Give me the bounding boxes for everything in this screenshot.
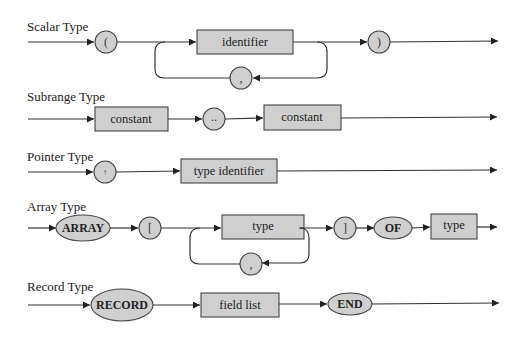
array-comma-symbol: ,: [250, 257, 253, 271]
syntax-diagram: Scalar Type ( identifier , ) Subrange Ty…: [0, 0, 526, 341]
constant-label-1: constant: [110, 112, 152, 126]
close-bracket-symbol: ]: [343, 221, 347, 235]
open-paren-symbol: (: [104, 35, 108, 49]
record-keyword-label: RECORD: [96, 298, 148, 312]
array-type-title: Array Type: [27, 199, 86, 214]
pointer-type-diagram: Pointer Type ↑ type identifier: [27, 149, 497, 183]
pointer-type-title: Pointer Type: [27, 149, 94, 164]
close-paren-symbol: ): [377, 35, 381, 49]
record-type-title: Record Type: [27, 279, 94, 294]
identifier-label: identifier: [222, 35, 269, 49]
type-label-1: type: [252, 219, 274, 233]
field-list-label: field list: [219, 298, 261, 312]
comma-symbol: ,: [240, 71, 243, 85]
scalar-type-title: Scalar Type: [27, 19, 89, 34]
open-bracket-symbol: [: [148, 221, 152, 235]
end-keyword-label: END: [337, 297, 363, 311]
range-dots-symbol: ..: [211, 110, 217, 124]
of-keyword-label: OF: [385, 221, 402, 235]
record-type-diagram: Record Type RECORD field list END: [27, 279, 499, 321]
constant-label-2: constant: [281, 110, 323, 124]
array-keyword-label: ARRAY: [62, 221, 105, 235]
array-type-diagram: Array Type ARRAY [ type , ] OF type: [27, 199, 497, 275]
pointer-arrow-symbol: ↑: [103, 168, 107, 177]
type-identifier-label: type identifier: [194, 164, 265, 178]
type-label-2: type: [443, 218, 465, 232]
subrange-type-diagram: Subrange Type constant .. constant: [27, 89, 497, 131]
scalar-type-diagram: Scalar Type ( identifier , ): [27, 19, 498, 89]
subrange-type-title: Subrange Type: [27, 89, 105, 104]
